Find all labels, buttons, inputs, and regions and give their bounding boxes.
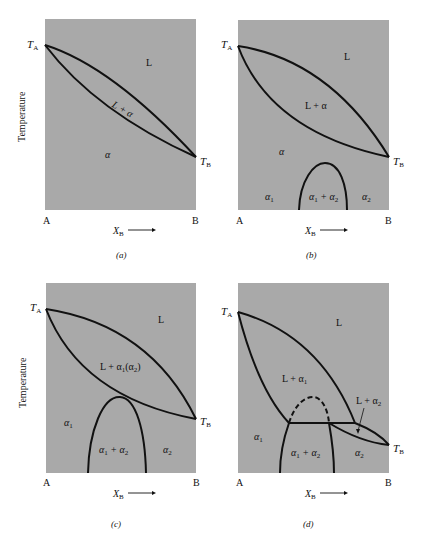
x-axis-left-label: A <box>236 215 244 226</box>
panel-caption: (b) <box>306 250 317 260</box>
y-axis-label: Temperature <box>17 357 28 408</box>
panel-d: TA TB L L + α1 L + α2 α1 α1 + α2 α2 A B … <box>221 283 404 529</box>
panel-caption: (d) <box>303 519 314 529</box>
region-liquid-label: L <box>146 57 152 68</box>
x-axis-left-label: A <box>43 477 51 488</box>
x-axis-right-label: B <box>385 477 392 488</box>
x-axis-right-label: B <box>192 215 199 226</box>
x-axis-label: XB <box>112 488 124 501</box>
y-axis-label: Temperature <box>16 91 27 142</box>
panel-caption: (c) <box>111 519 121 529</box>
panel-a: TA TB L L + α α A B XB (a) <box>27 19 211 260</box>
region-liquid-label: L <box>158 314 164 325</box>
panel-c: TA TB L L + α1(α2) α1 α1 + α2 α2 A B XB … <box>30 283 211 529</box>
phase-field-background <box>238 20 389 210</box>
region-liquid-label: L <box>344 51 350 62</box>
x-axis-label: XB <box>112 225 124 238</box>
t-a-label: TA <box>30 301 41 315</box>
t-a-label: TA <box>221 38 232 52</box>
region-solid-label: α <box>105 149 111 160</box>
x-axis-label: XB <box>304 225 316 238</box>
t-b-label: TB <box>200 155 211 169</box>
t-b-label: TB <box>200 415 211 429</box>
t-a-label: TA <box>221 305 232 319</box>
x-axis-right-label: B <box>193 477 200 488</box>
arrow-right-icon <box>128 228 156 232</box>
x-axis-right-label: B <box>385 215 392 226</box>
region-solid-label: α <box>279 146 285 157</box>
arrow-right-icon <box>128 491 156 495</box>
t-a-label: TA <box>27 38 38 52</box>
arrow-right-icon <box>320 491 348 495</box>
panel-caption: (a) <box>116 250 127 260</box>
region-liquid-label: L <box>336 317 342 328</box>
arrow-right-icon <box>320 228 348 232</box>
region-two-phase-label: L + α <box>305 100 327 111</box>
t-b-label: TB <box>393 442 404 456</box>
x-axis-left-label: A <box>236 477 244 488</box>
panel-b: TA TB L L + α α α1 α1 + α2 α2 A B XB (b) <box>221 20 404 260</box>
phase-diagram-figure: TA TB L L + α α A B XB (a) Temperature T… <box>0 0 423 540</box>
x-axis-left-label: A <box>43 215 51 226</box>
x-axis-label: XB <box>304 488 316 501</box>
t-b-label: TB <box>393 155 404 169</box>
